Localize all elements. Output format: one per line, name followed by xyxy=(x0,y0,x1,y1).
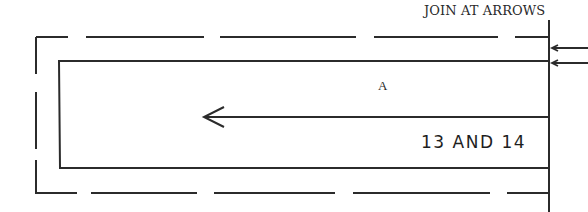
grainline-arrow-icon xyxy=(204,107,549,127)
join-arrow-icon xyxy=(552,60,588,66)
join-arrow-icon xyxy=(552,45,588,51)
join-instruction-label: JOIN AT ARROWS xyxy=(424,3,545,18)
pattern-lines xyxy=(0,0,588,212)
piece-number-label: 13 AND 14 xyxy=(421,132,526,152)
section-label: A xyxy=(378,78,387,94)
pattern-diagram: JOIN AT ARROWS A 13 AND 14 xyxy=(0,0,588,212)
